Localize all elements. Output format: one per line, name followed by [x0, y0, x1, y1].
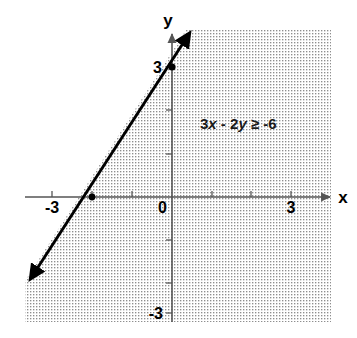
inequality-relation: ≥: [247, 115, 264, 132]
inequality-coef-y: 2: [230, 115, 238, 132]
y-intercept-point: [168, 63, 175, 70]
inequality-graph: -3 3 3 -3 0 x y 3x - 2y ≥ -6: [0, 0, 357, 338]
inequality-coef-x: 3: [200, 115, 208, 132]
y-tick-label-3: 3: [153, 59, 162, 76]
inequality-rhs: -6: [263, 115, 276, 132]
origin-label: 0: [158, 199, 167, 216]
x-tick-label-3: 3: [287, 199, 296, 216]
graph-canvas: -3 3 3 -3 0 x y 3x - 2y ≥ -6: [0, 0, 357, 338]
x-axis-label: x: [338, 188, 348, 207]
x-tick-label--3: -3: [45, 199, 59, 216]
inequality-minus: -: [217, 115, 230, 132]
x-intercept-point: [89, 194, 96, 201]
y-tick-label--3: -3: [149, 305, 163, 322]
inequality-annotation: 3x - 2y ≥ -6: [200, 115, 277, 132]
y-axis-label: y: [163, 11, 173, 30]
